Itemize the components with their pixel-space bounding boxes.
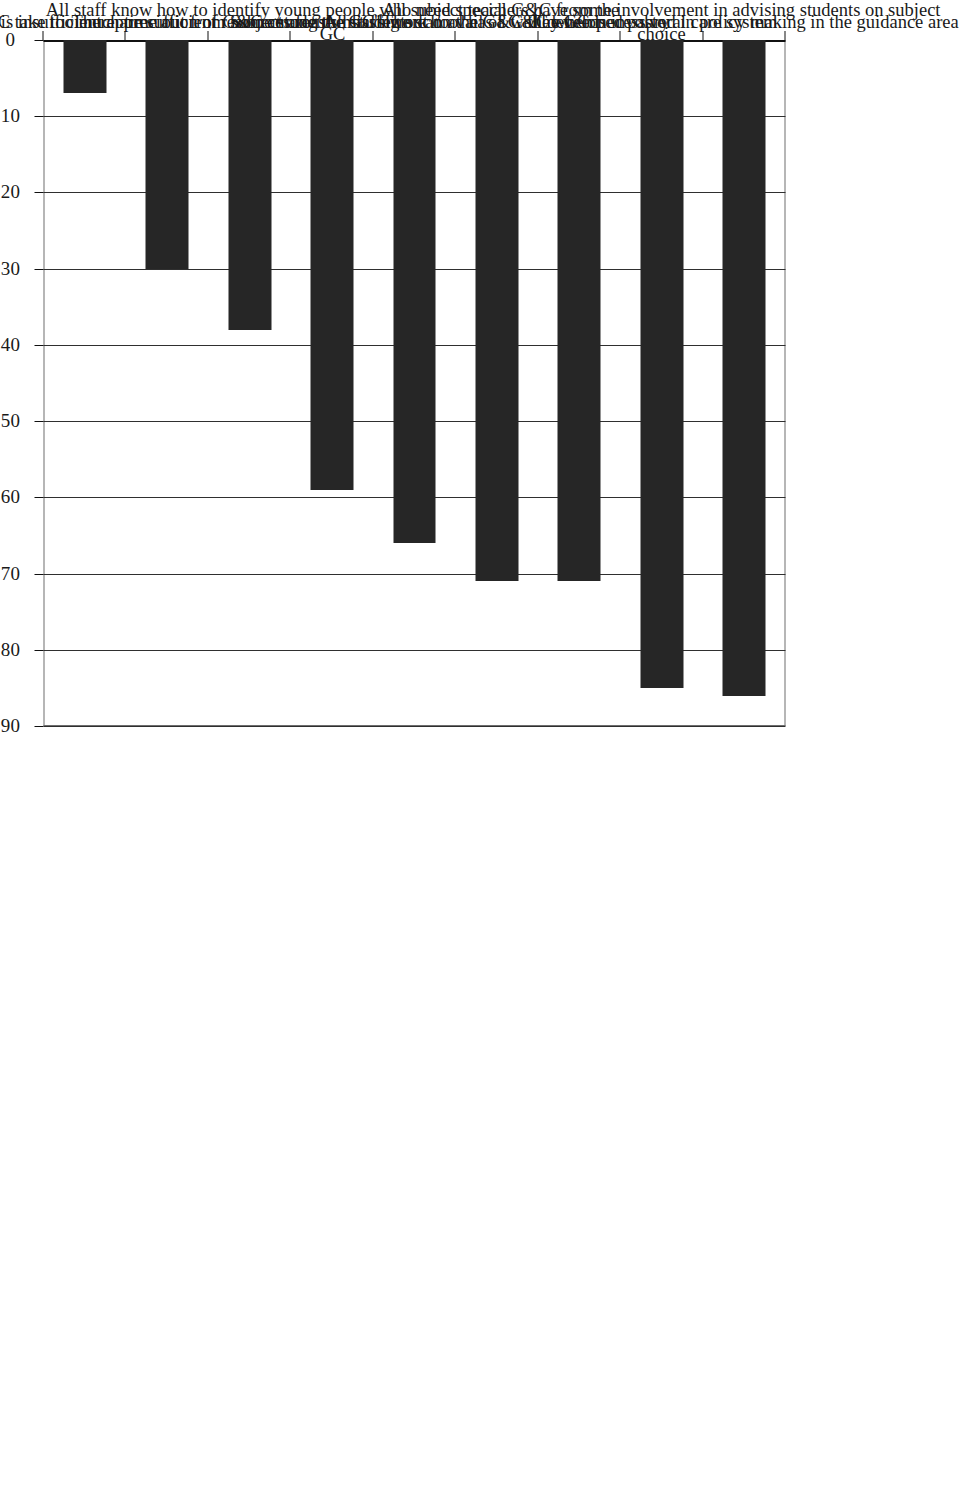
value-tick-mark xyxy=(34,192,43,193)
value-tick-label-80: 80 xyxy=(0,639,20,661)
bar xyxy=(475,40,518,581)
value-tick-mark xyxy=(34,574,43,575)
bar xyxy=(393,40,436,543)
value-tick-label-20: 20 xyxy=(0,181,20,203)
value-tick-mark xyxy=(34,345,43,346)
value-tick-label-60: 60 xyxy=(0,486,20,508)
bar xyxy=(557,40,600,581)
value-tick-mark xyxy=(34,726,43,727)
bar xyxy=(722,40,765,696)
value-tick-label-30: 30 xyxy=(0,258,20,280)
bar xyxy=(63,40,106,93)
plot-area xyxy=(43,40,785,726)
value-tick-mark xyxy=(34,116,43,117)
value-tick-mark xyxy=(34,497,43,498)
category-label: Some staff think G&C take too much time … xyxy=(0,10,404,34)
bar xyxy=(310,40,353,490)
value-tick-mark xyxy=(34,650,43,651)
value-tick-label-90: 90 xyxy=(0,715,20,737)
bar xyxy=(228,40,271,330)
gridline-90 xyxy=(43,726,785,727)
value-tick-label-50: 50 xyxy=(0,410,20,432)
value-tick-label-40: 40 xyxy=(0,334,20,356)
value-tick-mark xyxy=(34,269,43,270)
bar xyxy=(640,40,683,688)
value-tick-mark xyxy=(34,421,43,422)
value-tick-label-10: 10 xyxy=(0,105,20,127)
bar xyxy=(145,40,188,269)
value-tick-label-70: 70 xyxy=(0,563,20,585)
